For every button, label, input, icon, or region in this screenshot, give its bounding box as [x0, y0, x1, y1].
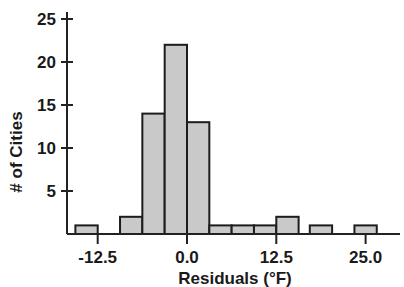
x-axis-ticks: -12.50.012.525.0 — [78, 234, 382, 267]
histogram-bar — [232, 225, 254, 234]
x-tick-label: 12.5 — [260, 248, 293, 267]
histogram-bar — [165, 45, 187, 234]
y-tick-label: 5 — [47, 182, 56, 201]
histogram-bar — [209, 225, 231, 234]
y-tick-label: 10 — [37, 139, 56, 158]
histogram-bar — [276, 217, 298, 234]
histogram-bar — [75, 225, 97, 234]
histogram-bar — [142, 114, 164, 234]
histogram-bar — [120, 217, 142, 234]
histogram-bar — [254, 225, 276, 234]
x-tick-label: 0.0 — [175, 248, 199, 267]
histogram-bar — [187, 122, 209, 234]
histogram-plot: 510152025 -12.50.012.525.0 # of Cities R… — [0, 0, 404, 287]
y-tick-label: 20 — [37, 53, 56, 72]
y-tick-label: 15 — [37, 96, 56, 115]
histogram-bar — [310, 225, 332, 234]
histogram-bar — [354, 225, 376, 234]
y-axis-title: # of Cities — [7, 111, 26, 192]
x-tick-label: 25.0 — [349, 248, 382, 267]
histogram-figure: 510152025 -12.50.012.525.0 # of Cities R… — [0, 0, 404, 287]
y-tick-label: 25 — [37, 10, 56, 29]
x-axis-title: Residuals (°F) — [178, 269, 292, 287]
bar-series — [75, 45, 376, 234]
x-tick-label: -12.5 — [78, 248, 117, 267]
